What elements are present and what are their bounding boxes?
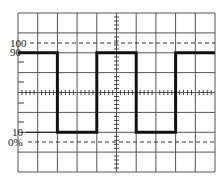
oscilloscope-graticule: 100 90 10 0% <box>0 0 223 182</box>
label-0-percent: 0% <box>8 136 23 148</box>
label-90: 90 <box>10 46 22 58</box>
